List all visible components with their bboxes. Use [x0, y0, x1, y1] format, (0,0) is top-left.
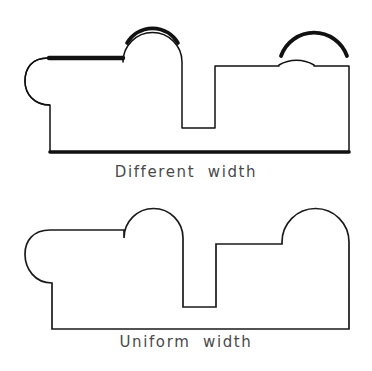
caption-different-width: Different width [0, 163, 372, 181]
different-width-outline [25, 32, 349, 152]
different-width-drawing [0, 0, 372, 190]
figure-different-width [0, 0, 372, 190]
caption-uniform-width: Uniform width [0, 333, 372, 351]
drawing-page: Different width Uniform width [0, 0, 372, 371]
uniform-width-body [25, 209, 349, 330]
thick-right-arch-crown [281, 33, 347, 56]
